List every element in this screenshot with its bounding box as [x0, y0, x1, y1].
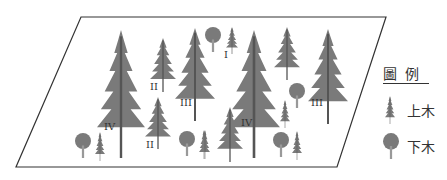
- label-iv-left: IV: [104, 121, 116, 132]
- label-i: I: [224, 49, 228, 60]
- small-conifer-5: [200, 130, 210, 159]
- conifer-tree-icon: [380, 94, 400, 126]
- lower-tree-5: [273, 132, 289, 157]
- label-iv-right: IV: [241, 117, 253, 128]
- lower-tree-1: [75, 133, 91, 158]
- broadleaf-tree-icon: [380, 130, 402, 162]
- upper-tree-iii-right: [308, 29, 348, 124]
- legend-item-upper: 上木: [380, 94, 446, 124]
- lower-tree-4: [289, 83, 305, 108]
- legend-label-lower: 下木: [407, 136, 435, 156]
- small-conifer-3: [280, 100, 290, 128]
- legend: 圖例 上木 下木: [380, 66, 446, 180]
- label-iii-right: III: [311, 97, 323, 108]
- label-iii-left: III: [180, 97, 192, 108]
- legend-item-lower: 下木: [380, 130, 446, 160]
- lower-tree-2: [179, 131, 195, 156]
- small-conifer-4: [292, 131, 302, 160]
- legend-label-upper: 上木: [407, 100, 435, 120]
- legend-title: 圖例: [383, 66, 429, 84]
- lower-tree-3: [205, 27, 221, 52]
- label-ii-upper: II: [150, 81, 158, 92]
- small-conifer-1: [95, 132, 105, 161]
- upper-tree-ii-midright: [274, 27, 300, 80]
- label-ii-lower: II: [146, 139, 154, 150]
- upper-tree-iv-left: [97, 30, 145, 158]
